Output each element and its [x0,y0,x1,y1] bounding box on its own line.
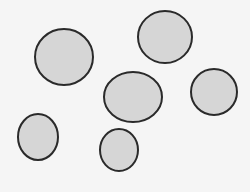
circle-top-left [35,29,93,85]
shapes-scene [0,0,250,192]
circle-middle [104,72,162,122]
circle-bottom-middle [100,129,138,171]
circle-bottom-left [18,114,58,160]
image-canvas [0,0,250,192]
circle-right [191,69,237,115]
circle-top-right [138,11,192,63]
